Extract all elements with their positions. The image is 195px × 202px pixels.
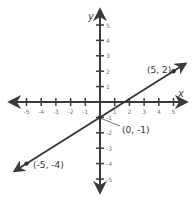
data-point [171, 69, 175, 73]
x-tick-label: -2 [68, 108, 74, 115]
x-tick-label: -5 [24, 108, 30, 115]
y-tick-label: -5 [106, 176, 112, 183]
y-tick-label: -2 [106, 129, 112, 136]
x-tick-label: -3 [53, 108, 59, 115]
y-tick-label: 3 [106, 52, 110, 59]
y-tick-label: 2 [106, 68, 110, 75]
x-tick-label: 4 [157, 108, 161, 115]
y-tick-label: -1 [106, 114, 112, 121]
y-tick-label: 1 [106, 83, 110, 90]
y-tick-label: 4 [106, 37, 110, 44]
point-label-0-neg1: (0, -1) [122, 125, 149, 135]
x-tick-label: 3 [142, 108, 146, 115]
x-tick-label: 2 [127, 108, 131, 115]
data-point [24, 161, 28, 165]
y-axis-label: y [87, 11, 95, 22]
x-tick-label: -4 [38, 108, 44, 115]
y-tick-label: -4 [106, 160, 112, 167]
x-axis-label: x [177, 88, 184, 99]
y-tick-label: -3 [106, 145, 112, 152]
point-label-5-2: (5, 2) [147, 65, 171, 75]
x-tick-label: -1 [82, 108, 88, 115]
y-tick-label: 5 [106, 22, 110, 29]
coordinate-plane: -5-4-3-2-11234554321-1-2-3-4-5 xy(5, 2)(… [0, 0, 195, 202]
x-tick-label: 5 [172, 108, 176, 115]
point-label-neg5-neg4: (-5, -4) [33, 160, 64, 170]
